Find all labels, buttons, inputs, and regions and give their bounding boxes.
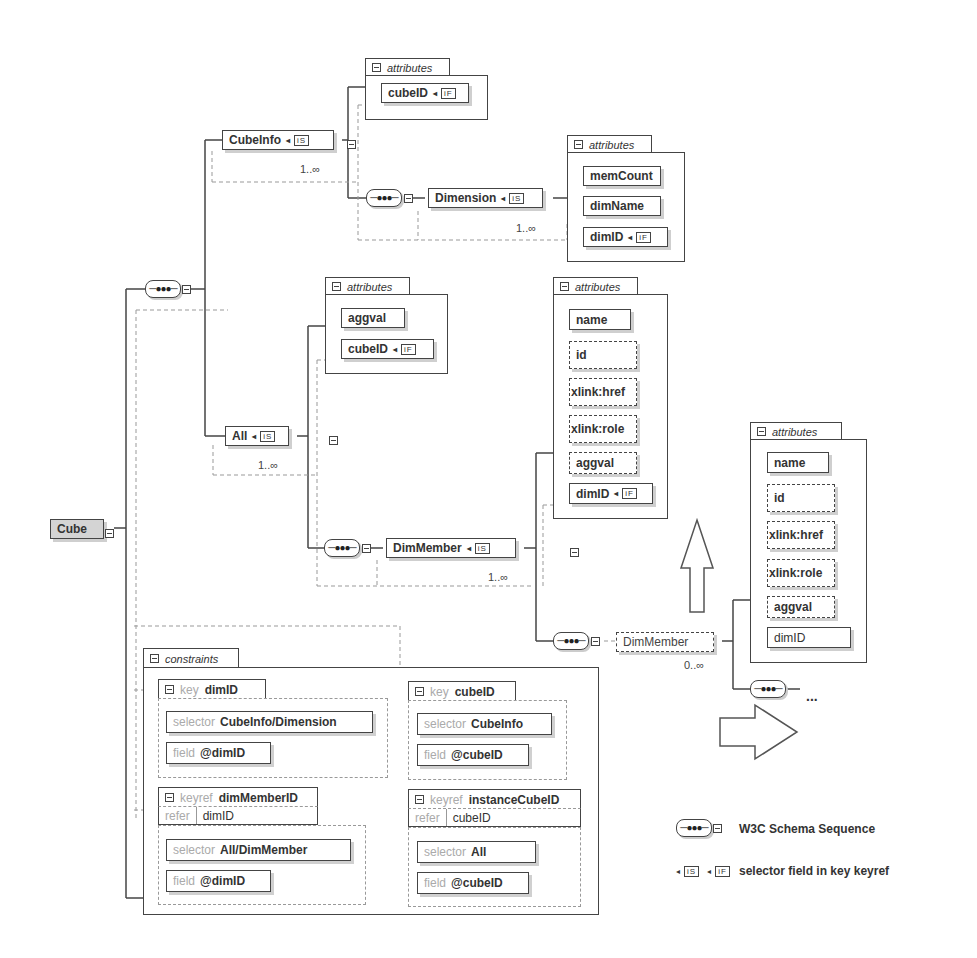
attribute-aggval[interactable]: aggval bbox=[341, 308, 405, 328]
element-cube[interactable]: Cube bbox=[50, 519, 104, 539]
selector-badge-icon: iS bbox=[684, 866, 699, 877]
key-cubeid-header[interactable]: key cubeID bbox=[408, 681, 516, 701]
element-cubeinfo[interactable]: CubeInfo ◂iS bbox=[222, 130, 334, 150]
attribute-label: dimName bbox=[590, 199, 644, 213]
constraint-kind: keyref bbox=[180, 791, 213, 805]
attribute-label: xlink:href bbox=[769, 528, 823, 542]
collapse-icon[interactable] bbox=[165, 685, 174, 694]
attribute-cubeid[interactable]: cubeID ◂iF bbox=[341, 339, 434, 359]
attribute-label: dimID bbox=[774, 631, 805, 645]
sequence-icon: ─●●●─ bbox=[370, 193, 397, 203]
attribute-id[interactable]: id bbox=[767, 484, 835, 512]
collapse-icon[interactable] bbox=[560, 282, 569, 291]
constraint-name: dimMemberID bbox=[219, 791, 298, 805]
collapse-icon[interactable] bbox=[362, 544, 371, 553]
attribute-dimname[interactable]: dimName bbox=[583, 196, 661, 216]
right-arrow-icon bbox=[720, 705, 797, 759]
collapse-icon[interactable] bbox=[415, 795, 424, 804]
keyref-dimmemberid-header[interactable]: keyref dimMemberID bbox=[158, 787, 318, 807]
element-label: CubeInfo bbox=[229, 133, 281, 147]
attribute-xlink-href[interactable]: xlink:href bbox=[569, 378, 637, 406]
attribute-xlink-role[interactable]: xlink:role bbox=[767, 559, 835, 587]
collapse-icon[interactable] bbox=[574, 140, 583, 149]
refer-value: dimID bbox=[197, 809, 234, 823]
sequence-icon: ─●●●─ bbox=[754, 684, 781, 694]
keyref-dimmemberid-refer[interactable]: refer dimID bbox=[158, 806, 318, 825]
field-value: @dimID bbox=[200, 874, 245, 888]
attribute-aggval[interactable]: aggval bbox=[569, 452, 637, 474]
keyref-instancecubeid-field[interactable]: field @cubeID bbox=[417, 872, 529, 894]
collapse-icon[interactable] bbox=[165, 793, 174, 802]
attribute-name[interactable]: name bbox=[767, 452, 829, 473]
keyref-instancecubeid-header[interactable]: keyref instanceCubeID bbox=[408, 789, 581, 809]
attributes-tab[interactable]: attributes bbox=[750, 422, 842, 440]
attribute-xlink-role[interactable]: xlink:role bbox=[569, 415, 637, 443]
collapse-icon[interactable] bbox=[150, 654, 159, 663]
keyref-instancecubeid-refer[interactable]: refer cubeID bbox=[408, 808, 581, 827]
collapse-icon[interactable] bbox=[757, 427, 766, 436]
key-dimid-field[interactable]: field @dimID bbox=[166, 742, 271, 764]
element-all[interactable]: All ◂iS bbox=[225, 426, 289, 446]
keyref-dimmemberid-field[interactable]: field @dimID bbox=[166, 870, 271, 892]
attribute-cubeid[interactable]: cubeID ◂iF bbox=[381, 83, 469, 103]
attribute-dimid[interactable]: dimID bbox=[767, 627, 851, 648]
key-cubeid-field[interactable]: field @cubeID bbox=[417, 744, 529, 766]
multiplicity: 1..∞ bbox=[488, 571, 508, 583]
collapse-icon[interactable] bbox=[591, 637, 600, 646]
field-label: field bbox=[424, 748, 446, 762]
key-dot-icon: ◂ bbox=[467, 544, 471, 553]
attribute-id[interactable]: id bbox=[569, 341, 637, 369]
attribute-aggval[interactable]: aggval bbox=[767, 596, 835, 618]
selector-badge: iS bbox=[475, 543, 490, 554]
attribute-dimid[interactable]: dimID ◂iF bbox=[569, 483, 653, 504]
collapse-icon[interactable] bbox=[347, 140, 356, 149]
attribute-label: cubeID bbox=[388, 86, 428, 100]
sequence-compositor[interactable]: ─●●●─ bbox=[324, 539, 360, 557]
attribute-xlink-href[interactable]: xlink:href bbox=[767, 521, 835, 549]
sequence-compositor[interactable]: ─●●●─ bbox=[553, 632, 589, 650]
selector-badge: iS bbox=[509, 193, 524, 204]
collapse-icon[interactable] bbox=[329, 436, 338, 445]
sequence-compositor[interactable]: ─●●●─ bbox=[145, 280, 181, 298]
multiplicity: 0..∞ bbox=[684, 659, 704, 671]
collapse-icon[interactable] bbox=[415, 687, 424, 696]
selector-value: CubeInfo bbox=[471, 717, 523, 731]
attributes-tab[interactable]: attributes bbox=[553, 277, 638, 295]
sequence-icon: ─●●●─ bbox=[328, 543, 355, 553]
attributes-tab[interactable]: attributes bbox=[325, 277, 410, 295]
collapse-icon[interactable] bbox=[372, 63, 381, 72]
constraints-title: constraints bbox=[165, 653, 218, 665]
collapse-icon[interactable] bbox=[182, 285, 191, 294]
more-ellipsis: ... bbox=[806, 688, 818, 704]
attribute-label: aggval bbox=[348, 311, 386, 325]
collapse-icon[interactable] bbox=[404, 194, 413, 203]
attributes-tab[interactable]: attributes bbox=[365, 58, 450, 76]
attribute-name[interactable]: name bbox=[569, 309, 631, 330]
field-label: field bbox=[424, 876, 446, 890]
attribute-memcount[interactable]: memCount bbox=[583, 166, 661, 186]
collapse-icon[interactable] bbox=[105, 529, 114, 538]
collapse-icon[interactable] bbox=[570, 548, 579, 557]
keyref-dimmemberid-selector[interactable]: selector All/DimMember bbox=[166, 839, 351, 861]
attribute-dimid[interactable]: dimID ◂iF bbox=[583, 227, 668, 247]
field-badge: iF bbox=[441, 88, 456, 99]
key-dimid-header[interactable]: key dimID bbox=[158, 679, 266, 699]
key-dimid-body bbox=[158, 698, 388, 778]
constraints-tab[interactable]: constraints bbox=[143, 648, 239, 668]
element-dimmember-recursive[interactable]: DimMember bbox=[616, 632, 714, 652]
key-dimid-selector[interactable]: selector CubeInfo/Dimension bbox=[166, 711, 373, 733]
element-dimmember[interactable]: DimMember ◂iS bbox=[386, 538, 516, 558]
field-badge-icon: iF bbox=[715, 866, 730, 877]
sequence-compositor[interactable]: ─●●●─ bbox=[366, 189, 402, 207]
sequence-compositor[interactable]: ─●●●─ bbox=[750, 680, 786, 698]
attributes-title: attributes bbox=[589, 139, 634, 151]
collapse-icon[interactable] bbox=[332, 282, 341, 291]
attributes-tab[interactable]: attributes bbox=[567, 135, 652, 153]
key-cubeid-selector[interactable]: selector CubeInfo bbox=[417, 713, 552, 735]
keyref-instancecubeid-selector[interactable]: selector All bbox=[417, 841, 536, 863]
element-label: All bbox=[232, 429, 247, 443]
attribute-label: dimID bbox=[590, 230, 623, 244]
element-dimension[interactable]: Dimension ◂iS bbox=[428, 188, 543, 208]
key-dot-icon: ◂ bbox=[628, 233, 632, 242]
attribute-label: aggval bbox=[576, 456, 614, 470]
